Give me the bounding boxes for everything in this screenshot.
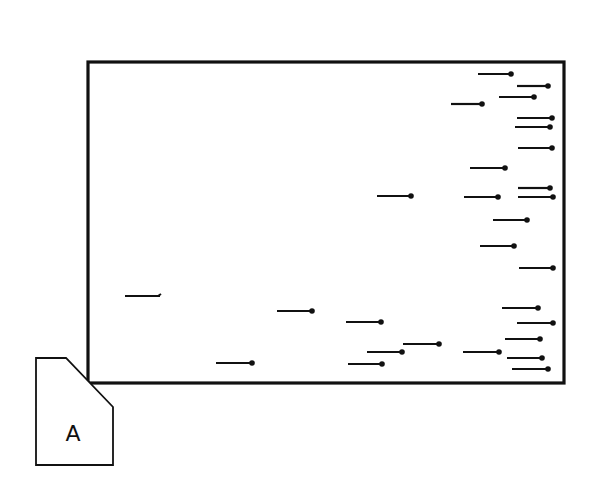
pin-dot-icon	[550, 265, 556, 271]
pin-dot-icon	[511, 243, 517, 249]
marker-segment	[403, 341, 442, 347]
pin-dot-icon	[547, 185, 553, 191]
marker-segment	[517, 83, 551, 89]
marker-segment	[518, 185, 553, 191]
marker-segment	[517, 115, 555, 121]
pin-dot-icon	[495, 194, 501, 200]
hook-end-icon	[158, 294, 161, 296]
pin-dot-icon	[502, 165, 508, 171]
marker-segment	[518, 145, 555, 151]
pin-dot-icon	[309, 308, 315, 314]
pin-dot-icon	[539, 355, 545, 361]
pin-dot-icon	[408, 193, 414, 199]
marker-segment	[505, 336, 543, 342]
pin-dot-icon	[496, 349, 502, 355]
marker-segment	[478, 71, 514, 77]
pin-dot-icon	[545, 83, 551, 89]
marker-segment	[480, 243, 517, 249]
marker-segment	[463, 349, 502, 355]
pin-dot-icon	[550, 194, 556, 200]
diagram-canvas: A	[0, 0, 596, 488]
marker-segment	[499, 94, 537, 100]
pin-dot-icon	[531, 94, 537, 100]
marker-segment	[507, 355, 545, 361]
marker-segment	[517, 320, 556, 326]
pin-dot-icon	[379, 361, 385, 367]
pin-dot-icon	[479, 101, 485, 107]
marker-segment	[277, 308, 315, 314]
pin-dot-icon	[547, 124, 553, 130]
pin-dot-icon	[535, 305, 541, 311]
marker-segment	[451, 101, 485, 107]
marker-segment	[518, 194, 556, 200]
pin-dot-icon	[550, 320, 556, 326]
pin-dot-icon	[399, 349, 405, 355]
field-frame	[88, 62, 564, 383]
marker-segments	[125, 71, 556, 372]
marker-segment	[346, 319, 384, 325]
marker-segment	[464, 194, 501, 200]
marker-segment	[125, 294, 161, 296]
tab-label: A	[65, 421, 80, 446]
pin-dot-icon	[436, 341, 442, 347]
marker-segment	[493, 217, 530, 223]
marker-segment	[367, 349, 405, 355]
pin-dot-icon	[549, 145, 555, 151]
marker-segment	[519, 265, 556, 271]
marker-segment	[216, 360, 255, 366]
marker-segment	[377, 193, 414, 199]
pin-dot-icon	[549, 115, 555, 121]
pin-dot-icon	[249, 360, 255, 366]
pin-dot-icon	[378, 319, 384, 325]
pin-dot-icon	[545, 366, 551, 372]
marker-segment	[348, 361, 385, 367]
pin-dot-icon	[524, 217, 530, 223]
pin-dot-icon	[537, 336, 543, 342]
marker-segment	[502, 305, 541, 311]
corner-tab	[36, 358, 113, 465]
marker-segment	[470, 165, 508, 171]
pin-dot-icon	[508, 71, 514, 77]
marker-segment	[515, 124, 553, 130]
marker-segment	[512, 366, 551, 372]
